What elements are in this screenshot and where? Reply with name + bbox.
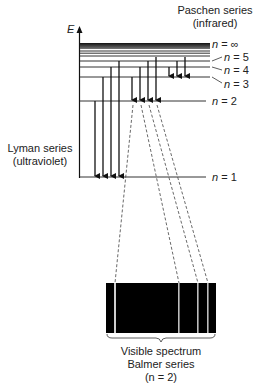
label-n1: n = 1 [212,171,237,183]
continuum-band [80,43,210,56]
balmer-projection-lines [115,105,208,283]
axis-label-e: E [67,23,75,35]
visible-spectrum [106,283,216,333]
balmer-arrows [132,57,156,100]
svg-text:Lyman series: Lyman series [7,142,73,154]
paschen-series-label: Paschen series (infrared) [177,4,253,29]
label-n5: n = 5 [224,51,249,63]
axis-arrow-icon [77,26,83,33]
spectral-line-4 [207,283,209,333]
svg-text:(n = 2): (n = 2) [145,371,177,383]
lyman-arrows [95,61,119,176]
label-n4: n = 4 [224,64,249,76]
svg-text:Visible spectrum: Visible spectrum [121,345,202,357]
svg-text:Balmer series: Balmer series [127,358,195,370]
label-n2: n = 2 [212,95,237,107]
energy-level-diagram: Paschen series (infrared) E n = ∞ n = 5 … [0,0,256,389]
svg-text:Paschen series: Paschen series [177,4,253,16]
spectral-line-3 [197,283,199,333]
lyman-series-label: Lyman series (ultraviolet) [7,142,73,167]
balmer-series-label: Visible spectrum Balmer series (n = 2) [121,345,202,383]
svg-text:(infrared): (infrared) [193,17,238,29]
svg-text:(ultraviolet): (ultraviolet) [13,155,67,167]
level-labels: n = ∞ n = 5 n = 4 n = 3 n = 2 n = 1 [212,38,249,183]
spectrum-brace [107,334,215,342]
spectral-line-h-alpha-region [114,283,116,333]
spectral-line-2 [178,283,180,333]
energy-levels [80,61,210,177]
label-n-inf: n = ∞ [212,38,239,50]
label-n3: n = 3 [224,78,249,90]
